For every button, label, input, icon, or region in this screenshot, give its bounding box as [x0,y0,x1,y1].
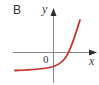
x-axis-label: x [89,55,94,67]
graph-figure: B y x 0 [0,0,99,85]
y-axis-arrow-icon [51,8,57,16]
origin-label: 0 [43,54,49,65]
y-axis-label: y [42,3,47,15]
panel-label: B [13,4,21,16]
